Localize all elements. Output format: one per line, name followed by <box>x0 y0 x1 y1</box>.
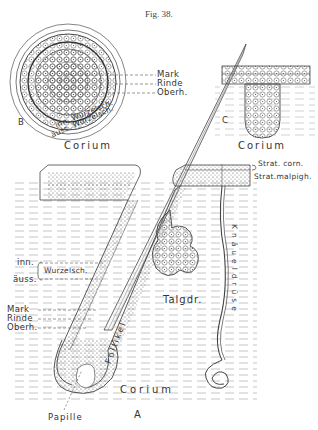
b-oberh-label: Oberh. <box>157 88 188 97</box>
panel-a-skin <box>15 164 257 410</box>
a-strat-malpigh-label: Strat.malpigh. <box>254 173 312 181</box>
panel-b-label: B <box>18 118 24 127</box>
a-knaueldruse-label: Knäueldrüse <box>231 224 239 315</box>
panel-c-label: C <box>222 116 228 125</box>
a-papille-label: Papille <box>48 413 83 422</box>
a-corium-label: Corium <box>120 385 174 395</box>
a-talgdr-label: Talgdr. <box>163 295 202 305</box>
b-corium-label: Corium <box>64 141 112 151</box>
a-oberh-label: Oberh. <box>7 323 38 332</box>
a-wurzelsch-label: Wurzelsch. <box>44 267 88 275</box>
panel-a-label: A <box>134 410 141 420</box>
anatomy-illustration <box>0 0 318 430</box>
a-inn-label: inn. <box>17 258 34 267</box>
panel-c-sketch <box>215 66 315 138</box>
a-auss-label: äuss. <box>13 275 37 284</box>
a-strat-corn-label: Strat. corn. <box>258 160 304 168</box>
c-corium-label: Corium <box>238 141 286 151</box>
